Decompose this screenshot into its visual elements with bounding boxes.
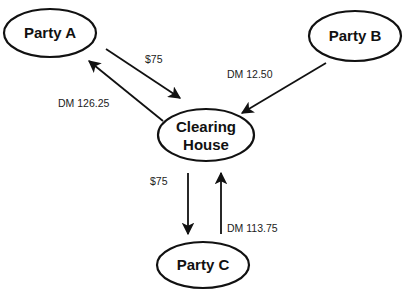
edge-label-a-to-clearing: $75 [145, 53, 163, 65]
clearing-house-label-line2: House [183, 136, 229, 153]
arrow-a-to-clearing [106, 49, 180, 98]
clearing-house-label-line1: Clearing [176, 118, 236, 135]
arrow-clearing-to-a [89, 61, 163, 121]
party-b-label: Party B [329, 27, 382, 44]
edge-b-to-clearing: DM 12.50 [227, 63, 326, 113]
edge-label-b-to-clearing: DM 12.50 [227, 68, 273, 80]
edge-clearing-to-a: DM 126.25 [58, 61, 163, 121]
party-a-label: Party A [24, 24, 76, 41]
edge-clearing-to-c: $75 [150, 173, 188, 234]
edge-label-clearing-to-a: DM 126.25 [58, 97, 110, 109]
edge-label-clearing-to-c: $75 [150, 175, 168, 187]
node-party-a: Party A [4, 9, 96, 57]
edge-label-c-to-clearing: DM 113.75 [227, 222, 278, 234]
edge-c-to-clearing: DM 113.75 [221, 173, 278, 234]
party-c-label: Party C [177, 256, 230, 273]
node-party-c: Party C [157, 242, 249, 288]
edge-a-to-clearing: $75 [106, 49, 180, 98]
node-party-b: Party B [309, 11, 401, 61]
node-clearing-house: Clearing House [158, 109, 254, 161]
diagram-canvas: $75 DM 126.25 DM 12.50 $75 DM 113.75 Par… [0, 0, 405, 290]
clearing-house-ellipse [158, 109, 254, 161]
